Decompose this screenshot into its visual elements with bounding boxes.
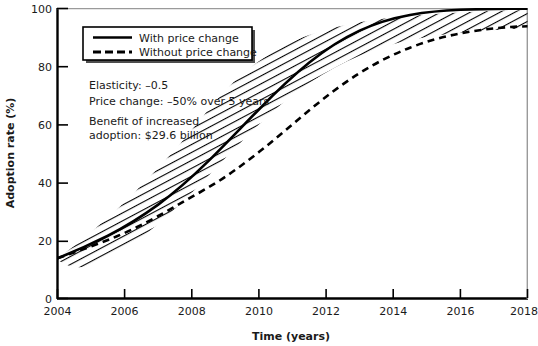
adoption-rate-chart: 100 80 60 40 20 0 2004 2006 2008 2010 20… xyxy=(0,0,538,346)
legend-label-with-price-change: With price change xyxy=(139,32,239,45)
annotation-price-change: Price change: –50% over 5 years xyxy=(89,95,270,108)
y-tick-label-80: 80 xyxy=(38,61,52,74)
x-axis-title: Time (years) xyxy=(252,330,330,343)
x-tick-label-2006: 2006 xyxy=(111,305,139,318)
y-tick-labels: 100 80 60 40 20 0 xyxy=(31,3,52,306)
annotation-benefit-line2: adoption: $29.6 billion xyxy=(89,129,213,142)
x-tick-label-2012: 2012 xyxy=(312,305,340,318)
y-tick-label-60: 60 xyxy=(38,119,52,132)
chart-figure: 100 80 60 40 20 0 2004 2006 2008 2010 20… xyxy=(0,0,538,346)
x-tick-label-2008: 2008 xyxy=(178,305,206,318)
legend-label-without-price-change: Without price change xyxy=(139,46,257,59)
x-tick-label-2014: 2014 xyxy=(379,305,407,318)
y-tick-label-40: 40 xyxy=(38,177,52,190)
y-axis-title: Adoption rate (%) xyxy=(4,98,17,209)
x-axis-ticks xyxy=(58,289,528,298)
y-tick-label-0: 0 xyxy=(45,293,52,306)
chart-legend: With price change Without price change xyxy=(83,27,257,63)
y-tick-label-100: 100 xyxy=(31,3,52,16)
y-tick-label-20: 20 xyxy=(38,235,52,248)
x-tick-labels: 2004 2006 2008 2010 2012 2014 2016 2018 xyxy=(44,305,538,318)
annotation-benefit-line1: Benefit of increased xyxy=(89,115,199,128)
annotation-elasticity: Elasticity: –0.5 xyxy=(89,79,168,92)
x-tick-label-2018: 2018 xyxy=(510,305,538,318)
x-tick-label-2004: 2004 xyxy=(44,305,72,318)
x-tick-label-2016: 2016 xyxy=(446,305,474,318)
x-tick-label-2010: 2010 xyxy=(245,305,273,318)
